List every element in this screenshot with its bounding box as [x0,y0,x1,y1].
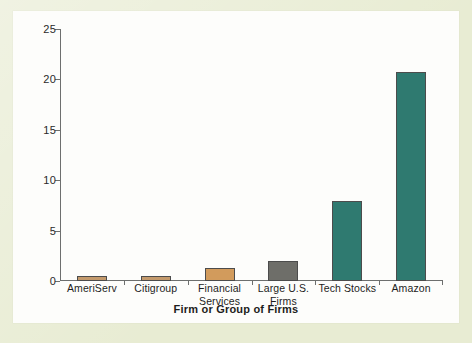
bar-series [60,29,443,281]
chart-card: 0510152025 AmeriServCitigroupFinancial S… [13,11,459,323]
bar [205,268,235,281]
bar [268,261,298,281]
x-tick-label: Tech Stocks [315,282,379,295]
x-tick-label: Amazon [379,282,443,295]
y-tick-label: 5 [50,225,56,237]
bar [77,276,107,281]
y-tick-label: 25 [43,23,56,35]
y-tick-label: 10 [43,174,56,186]
figure-root: 0510152025 AmeriServCitigroupFinancial S… [0,0,472,343]
y-tick-label: 0 [50,275,56,287]
x-tick-label: AmeriServ [60,282,124,295]
plot-area: 0510152025 [60,29,443,281]
bar [396,72,426,281]
x-tick-label: Citigroup [124,282,188,295]
bar [332,201,362,281]
x-axis-tick-labels: AmeriServCitigroupFinancial ServicesLarg… [60,282,443,322]
y-tick-label: 15 [43,124,56,136]
bar [141,276,171,281]
y-tick-label: 20 [43,73,56,85]
x-axis-title: Firm or Group of Firms [13,303,459,315]
